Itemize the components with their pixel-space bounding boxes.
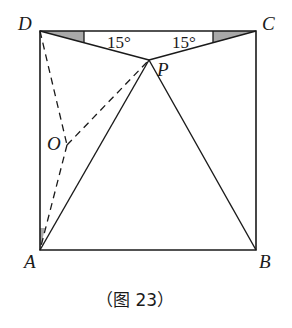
angle-label-right: 15° [172,33,196,52]
label-b: B [259,251,271,272]
square-abcd [40,31,256,250]
segment-bp [149,60,256,250]
dashed-do [40,31,67,145]
figure-caption: （图 23） [96,290,174,310]
segment-cp [149,31,256,60]
label-a: A [22,251,36,272]
dashed-oa [40,145,67,250]
segment-ap [40,60,149,250]
label-d: D [17,13,32,34]
angle-label-left: 15° [107,33,131,52]
segment-dp [40,31,149,60]
geometry-diagram: D C P O A B 15° 15° （图 23） [0,0,292,328]
label-o: O [47,133,61,154]
label-p: P [156,59,169,80]
label-c: C [262,13,275,34]
